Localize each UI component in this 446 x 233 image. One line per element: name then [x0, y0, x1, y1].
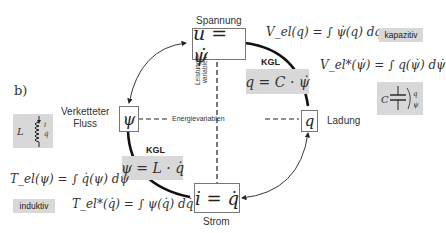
power-variables-label: Leistungs- variablen	[194, 52, 208, 88]
charge-node: q	[301, 110, 318, 132]
capacitive-kgl-label: KGL	[261, 57, 280, 67]
flux-formula: ψ	[123, 110, 136, 129]
inductive-constitutive-box: ψ = L · q̇	[122, 156, 183, 180]
capacitive-coenergy-formula: V_el*(ψ̇) = ∫ q(ψ̇) dψ̇	[320, 58, 446, 72]
capacitive-energy-formula: V_el(q) = ∫ ψ̇(q) dq	[266, 25, 382, 39]
svg-text:L: L	[16, 126, 24, 137]
capacitive-constitutive-formula: q = C · ψ̇	[245, 74, 310, 90]
figure-label: b)	[14, 83, 27, 98]
voltage-flux-derivative-arrow	[129, 43, 186, 103]
capacitive-constitutive-box: q = C · ψ̇	[246, 69, 309, 94]
inductive-kgl-label: KGL	[146, 145, 165, 155]
inductive-energy-formula: T_el(ψ) = ∫ q̇(ψ) dψ	[10, 172, 129, 186]
current-node: i = q̇	[194, 183, 240, 213]
svg-text:C: C	[381, 94, 389, 105]
current-formula: i = q̇	[195, 188, 239, 209]
flux-title: Verketteter Fluss	[61, 106, 109, 130]
inductor-symbol-box: L i q̇	[13, 114, 53, 148]
capacitive-tag: kapazitiv	[379, 28, 423, 42]
energy-variables-label: Energievariablen	[172, 115, 225, 122]
flux-node: ψ	[119, 106, 139, 132]
current-title: Strom	[203, 216, 230, 227]
svg-text:ψ̇: ψ̇	[413, 101, 419, 109]
inductive-coenergy-formula: T_el*(q̇) = ∫ ψ(q̇) dq̇	[72, 197, 193, 211]
svg-text:q: q	[413, 90, 418, 98]
capacitor-icon: C q ψ̇	[377, 82, 423, 115]
inductive-tag: induktiv	[13, 199, 55, 213]
charge-current-derivative-arrow	[242, 133, 308, 198]
inductor-icon: L i q̇	[13, 114, 53, 148]
charge-formula: q	[305, 112, 315, 130]
svg-text:i: i	[44, 121, 46, 129]
capacitor-symbol-box: C q ψ̇	[377, 82, 423, 115]
charge-title: Ladung	[327, 115, 360, 126]
inductive-constitutive-formula: ψ = L · q̇	[121, 160, 184, 176]
svg-text:q̇: q̇	[44, 130, 49, 138]
